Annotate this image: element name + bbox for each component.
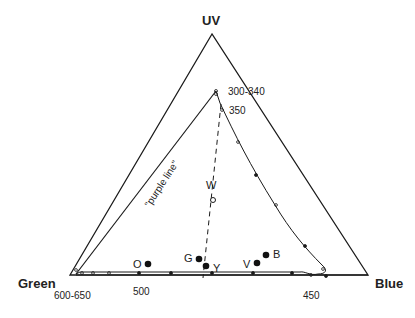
vertex-label-green: Green [18, 276, 56, 291]
point-y [203, 263, 210, 270]
wavelength-label-600-650: 600-650 [54, 290, 91, 301]
locus-marker [325, 275, 328, 278]
point-label-g: G [184, 252, 193, 264]
point-label-b: B [273, 248, 280, 260]
point-o [145, 261, 152, 268]
wavelength-label-350: 350 [229, 105, 246, 116]
point-label-w: W [206, 179, 217, 191]
wavelength-label-450: 450 [303, 290, 320, 301]
point-label-y: Y [213, 262, 221, 274]
vertex-label-blue: Blue [375, 276, 403, 291]
point-label-o: O [133, 258, 142, 270]
locus-marker [170, 272, 173, 275]
locus-marker [138, 272, 141, 275]
point-b [263, 252, 270, 259]
dashed-line [203, 104, 221, 278]
outer-triangle [70, 34, 368, 275]
locus-marker [291, 272, 294, 275]
locus-marker [322, 268, 325, 271]
point-label-v: V [243, 258, 251, 270]
color-triangle-diagram: UV Green Blue 300-340 350 600-650 500 45… [0, 0, 415, 318]
locus-markers [75, 90, 328, 278]
purple-line [76, 91, 216, 274]
spectral-locus [76, 91, 325, 274]
locus-marker [255, 174, 258, 177]
vertex-label-uv: UV [202, 13, 220, 28]
locus-marker [75, 269, 78, 272]
wavelength-label-300-340: 300-340 [228, 86, 265, 97]
locus-marker [252, 272, 255, 275]
point-w [211, 198, 216, 203]
purple-line-label: "purple line" [142, 158, 180, 209]
point-g [196, 256, 203, 263]
wavelength-label-500: 500 [133, 286, 150, 297]
point-v [254, 260, 261, 267]
locus-marker [304, 245, 307, 248]
